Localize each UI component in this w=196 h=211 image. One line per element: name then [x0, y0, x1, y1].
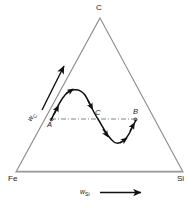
curve-path	[51, 90, 136, 143]
diagram-canvas	[0, 0, 196, 211]
reaction-path-curve	[51, 90, 136, 143]
triangle-edges	[16, 18, 183, 172]
ternary-diagram-figure: C Fe Si A C B wC wSi	[0, 0, 196, 211]
curve-direction-arrows	[54, 90, 133, 143]
w-si-axis-label: wSi	[80, 188, 90, 198]
triangle-outline	[16, 18, 183, 172]
w-si-subscript: Si	[85, 191, 90, 197]
point-label-a: A	[47, 121, 52, 129]
point-label-b: B	[133, 108, 138, 116]
vertex-label-c: C	[96, 4, 102, 12]
vertex-label-si: Si	[177, 175, 184, 183]
vertex-label-fe: Fe	[8, 175, 17, 183]
tie-line-group	[50, 118, 137, 121]
point-label-c: C	[95, 109, 100, 117]
